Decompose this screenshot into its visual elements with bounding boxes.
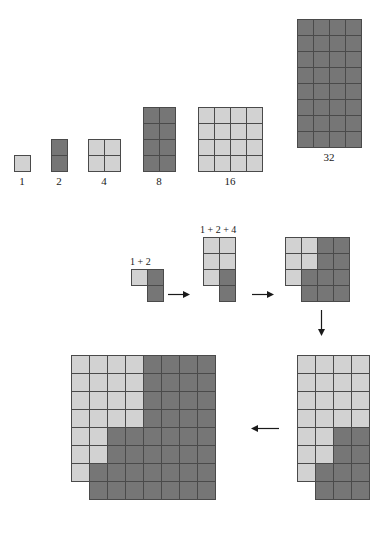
grid-cell-dark-r4c7 (179, 409, 198, 428)
grid-cell-dark-r7c1 (297, 115, 314, 132)
grid-cell-dark-r2c7 (179, 373, 198, 392)
grid-cell-dark-r2c6 (161, 373, 180, 392)
grid-cell-dark-r8c4 (125, 481, 144, 500)
grid-cell-light-r5c1 (297, 427, 316, 446)
grid-cell-dark-r7c4 (351, 463, 370, 482)
grid-cell-light-r2c1 (71, 373, 90, 392)
grid-cell-dark-r6c8 (197, 445, 216, 464)
grid-cell-dark-r2c1 (143, 123, 160, 140)
grid-cell-empty-r2c1 (131, 285, 148, 302)
grid-cell-light-r4c1 (71, 409, 90, 428)
grid-cell-dark-r8c8 (197, 481, 216, 500)
grid-cell-dark-r4c2 (313, 67, 330, 84)
grid-cell-light-r2c2 (301, 253, 318, 270)
grid-cell-light-r3c3 (333, 391, 352, 410)
shape-1-plus-2-plus-4-plus-8 (285, 237, 349, 301)
grid-cell-light-r7c1 (71, 463, 90, 482)
grid-cell-empty-r8c1 (71, 481, 90, 500)
grid-cell-light-r1c4 (125, 355, 144, 374)
grid-cell-light-r3c1 (71, 391, 90, 410)
grid-cell-light-r2c4 (246, 123, 263, 140)
grid-cell-dark-r2c1 (297, 35, 314, 52)
grid-cell-empty-r8c1 (297, 481, 316, 500)
shape-1-plus-2 (131, 269, 163, 301)
grid-cell-light-r3c2 (89, 391, 108, 410)
grid-cell-light-r1c1 (71, 355, 90, 374)
grid-cell-light-r4c4 (351, 409, 370, 428)
grid-cell-dark-r5c8 (197, 427, 216, 446)
shape-sum-63 (71, 355, 215, 499)
grid-cell-dark-r7c7 (179, 463, 198, 482)
shape-sum-31 (297, 355, 369, 499)
grid-cell-dark-r8c4 (351, 481, 370, 500)
grid-cell-dark-r5c4 (125, 427, 144, 446)
grid-cell-light-r6c1 (71, 445, 90, 464)
grid-cell-dark-r3c4 (333, 269, 350, 286)
grid-cell-light-r1c3 (333, 355, 352, 374)
grid-cell-dark-r7c4 (125, 463, 144, 482)
grid-cell-dark-r3c1 (297, 51, 314, 68)
grid-cell-dark-r6c6 (161, 445, 180, 464)
grid-cell-dark-r6c3 (107, 445, 126, 464)
grid-cell-dark-r4c8 (197, 409, 216, 428)
grid-cell-dark-r4c1 (297, 67, 314, 84)
grid-cell-dark-r2c1 (51, 155, 68, 172)
power-block-16 (198, 107, 262, 171)
power-block-caption-4: 4 (74, 175, 134, 187)
grid-cell-dark-r7c4 (345, 115, 362, 132)
grid-cell-light-r3c2 (315, 391, 334, 410)
grid-cell-dark-r1c1 (143, 107, 160, 124)
grid-cell-light-r1c1 (297, 355, 316, 374)
grid-cell-dark-r8c3 (333, 481, 352, 500)
grid-cell-dark-r7c3 (329, 115, 346, 132)
grid-cell-dark-r2c3 (329, 35, 346, 52)
power-block-4 (88, 139, 120, 171)
grid-cell-dark-r3c7 (179, 391, 198, 410)
grid-cell-dark-r1c5 (143, 355, 162, 374)
arrow-left-1-icon (251, 424, 279, 433)
grid-cell-light-r6c2 (315, 445, 334, 464)
grid-cell-light-r1c1 (14, 155, 31, 172)
grid-cell-dark-r3c5 (143, 391, 162, 410)
grid-cell-empty-r4c1 (203, 285, 220, 302)
grid-cell-dark-r5c6 (161, 427, 180, 446)
grid-cell-dark-r4c1 (143, 155, 160, 172)
grid-cell-dark-r1c7 (179, 355, 198, 374)
grid-cell-dark-r2c5 (143, 373, 162, 392)
grid-cell-dark-r3c8 (197, 391, 216, 410)
grid-cell-dark-r5c4 (345, 83, 362, 100)
grid-cell-dark-r8c1 (297, 131, 314, 148)
figure-canvas: 124816321 + 21 + 2 + 4 (0, 0, 386, 537)
grid-cell-light-r4c3 (107, 409, 126, 428)
grid-cell-dark-r3c2 (159, 139, 176, 156)
grid-cell-dark-r5c3 (333, 427, 352, 446)
grid-cell-light-r3c2 (214, 139, 231, 156)
grid-cell-light-r2c3 (333, 373, 352, 392)
grid-cell-dark-r8c7 (179, 481, 198, 500)
shape-1-plus-2-plus-4 (203, 237, 235, 301)
grid-cell-dark-r7c6 (161, 463, 180, 482)
grid-cell-light-r3c1 (203, 269, 220, 286)
grid-cell-dark-r2c3 (317, 253, 334, 270)
grid-cell-dark-r4c3 (317, 285, 334, 302)
grid-cell-dark-r5c4 (351, 427, 370, 446)
grid-cell-dark-r3c2 (219, 269, 236, 286)
grid-cell-dark-r8c2 (313, 131, 330, 148)
grid-cell-dark-r8c3 (107, 481, 126, 500)
grid-cell-dark-r2c2 (313, 35, 330, 52)
grid-cell-light-r3c4 (246, 139, 263, 156)
grid-cell-light-r4c2 (89, 409, 108, 428)
grid-cell-light-r1c4 (246, 107, 263, 124)
grid-cell-light-r1c2 (301, 237, 318, 254)
grid-cell-dark-r6c1 (297, 99, 314, 116)
grid-cell-light-r1c3 (230, 107, 247, 124)
grid-cell-dark-r1c2 (147, 269, 164, 286)
grid-cell-dark-r5c3 (329, 83, 346, 100)
grid-cell-light-r2c2 (104, 155, 121, 172)
grid-cell-dark-r1c4 (345, 19, 362, 36)
grid-cell-light-r3c3 (230, 139, 247, 156)
grid-cell-dark-r7c3 (333, 463, 352, 482)
grid-cell-dark-r8c4 (345, 131, 362, 148)
grid-cell-dark-r7c2 (313, 115, 330, 132)
grid-cell-dark-r7c2 (89, 463, 108, 482)
